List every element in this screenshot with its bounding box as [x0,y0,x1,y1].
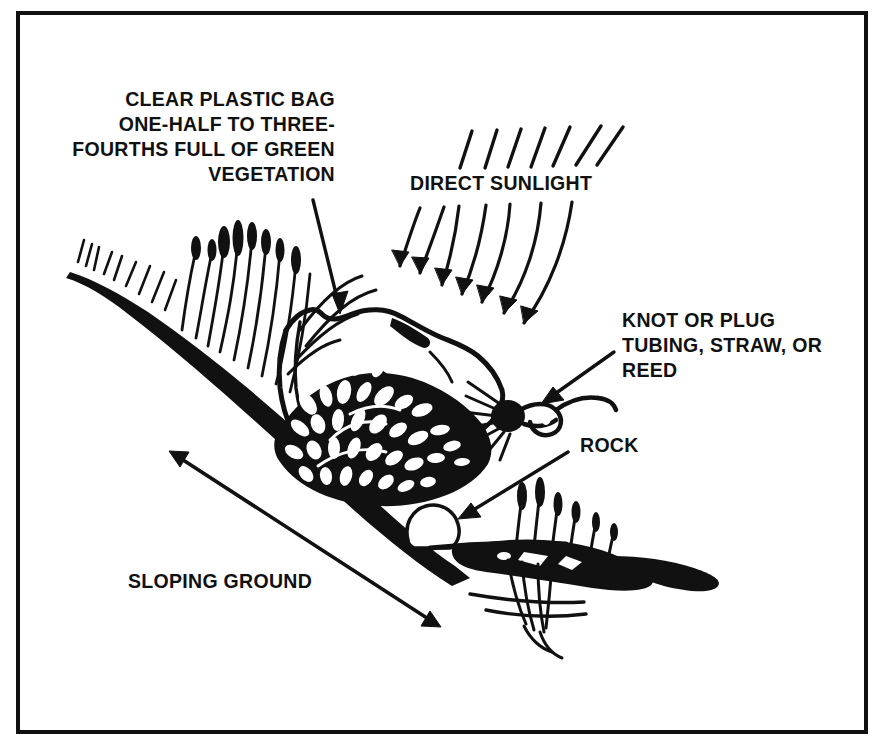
grass-seedhead-icon [610,523,618,541]
label-line: FOURTHS FULL OF GREEN [72,138,335,160]
grass-seedhead-icon [291,246,301,274]
grass-seedhead-icon [517,482,527,510]
figure-root: CLEAR PLASTIC BAG ONE-HALF TO THREE- FOU… [0,0,883,745]
svg-text:REED: REED [622,359,677,381]
grass-seedhead-icon [208,239,217,261]
vegetation-bag-illustration: CLEAR PLASTIC BAG ONE-HALF TO THREE- FOU… [0,0,883,745]
label-line: KNOT OR PLUG [622,309,775,331]
label-sloping-ground: SLOPING GROUND [128,570,312,592]
svg-text:CLEAR PLASTIC BAG: CLEAR PLASTIC BAG [125,88,335,110]
svg-text:DIRECT SUNLIGHT: DIRECT SUNLIGHT [410,172,592,194]
label-line: DIRECT SUNLIGHT [410,172,592,194]
label-line: ROCK [580,434,639,456]
label-line: ONE-HALF TO THREE- [119,113,335,135]
label-line: TUBING, STRAW, OR [622,334,822,356]
svg-text:ROCK: ROCK [580,434,639,456]
grass-seedhead-icon [572,501,581,523]
svg-text:ONE-HALF TO THREE-: ONE-HALF TO THREE- [119,113,335,135]
svg-text:VEGETATION: VEGETATION [208,163,335,185]
grass-seedhead-icon [535,477,545,507]
label-line: SLOPING GROUND [128,570,312,592]
svg-text:SLOPING GROUND: SLOPING GROUND [128,570,312,592]
grass-seedhead-icon [554,492,563,516]
svg-text:FOURTHS FULL OF GREEN: FOURTHS FULL OF GREEN [72,138,335,160]
knot-blob [491,400,525,432]
tubing-bore-opening [541,411,551,425]
grass-seedhead-icon [191,236,201,260]
svg-text:TUBING, STRAW, OR: TUBING, STRAW, OR [622,334,822,356]
grass-seedhead-icon [261,229,271,255]
rock-object [407,505,459,548]
rock-shape [407,505,459,548]
grass-seedhead-icon [247,222,257,250]
label-line: VEGETATION [208,163,335,185]
label-line: CLEAR PLASTIC BAG [125,88,335,110]
grass-seedhead-icon [592,512,600,532]
label-direct-sunlight: DIRECT SUNLIGHT [410,172,592,194]
label-rock: ROCK [580,434,639,456]
figure-background [0,0,883,745]
label-line: REED [622,359,677,381]
grass-seedhead-icon [276,238,285,262]
grass-seedhead-icon [233,220,244,256]
svg-text:KNOT OR PLUG: KNOT OR PLUG [622,309,775,331]
grass-seedhead-icon [218,226,230,258]
